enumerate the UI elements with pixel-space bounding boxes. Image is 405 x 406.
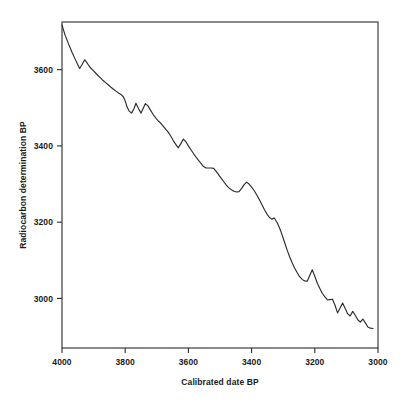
y-tick-label: 3600 <box>34 65 53 75</box>
y-tick-label: 3200 <box>34 217 53 227</box>
radiocarbon-calibration-figure: 400038003600340032003000 360034003200300… <box>0 0 405 406</box>
x-tick-label: 3800 <box>116 357 135 367</box>
y-axis-tick-marks <box>57 70 62 299</box>
chart-canvas: 400038003600340032003000 360034003200300… <box>0 0 405 406</box>
y-axis-title: Radiocarbon determination BP <box>18 121 28 249</box>
calibration-curve-line <box>62 25 373 329</box>
x-tick-label: 3200 <box>305 357 324 367</box>
x-tick-label: 4000 <box>52 357 71 367</box>
x-tick-label: 3000 <box>368 357 387 367</box>
x-tick-label: 3600 <box>179 357 198 367</box>
y-tick-label: 3400 <box>34 141 53 151</box>
x-axis-title: Calibrated date BP <box>181 377 259 387</box>
x-axis-tick-marks <box>62 348 378 353</box>
x-axis-tick-labels: 400038003600340032003000 <box>52 357 387 367</box>
y-axis-tick-labels: 3600340032003000 <box>34 65 53 304</box>
x-tick-label: 3400 <box>242 357 261 367</box>
y-tick-label: 3000 <box>34 294 53 304</box>
